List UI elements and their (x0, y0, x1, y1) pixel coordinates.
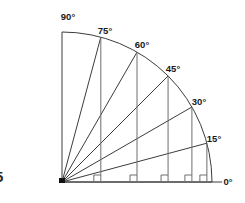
right-angle-mark-30deg (185, 175, 192, 182)
right-angle-mark-15deg (200, 175, 207, 182)
angle-label-15deg: 15° (207, 133, 222, 144)
angle-label-30deg: 30° (192, 96, 207, 107)
right-angle-mark-60deg (130, 175, 137, 182)
angle-label-90deg: 90° (61, 11, 76, 22)
angle-label-60deg: 60° (135, 39, 150, 50)
ray-45deg (62, 76, 168, 182)
diagram-geometry (59, 32, 222, 183)
angle-label-45deg: 45° (166, 63, 181, 74)
right-angle-mark-45deg (161, 175, 168, 182)
quarter-circle-diagram-svg: 0°15°30°45°60°75°90° (0, 0, 245, 203)
ray-30deg (62, 107, 192, 182)
edge-label-text: 5 (0, 168, 6, 186)
right-angle-mark-75deg (94, 175, 101, 182)
angle-label-0deg: 0° (223, 176, 232, 187)
origin-vertex (59, 178, 65, 183)
cropped-edge-label: 5 (0, 168, 6, 186)
ray-75deg (62, 37, 101, 182)
ray-60deg (62, 52, 137, 182)
angle-label-75deg: 75° (98, 25, 113, 36)
